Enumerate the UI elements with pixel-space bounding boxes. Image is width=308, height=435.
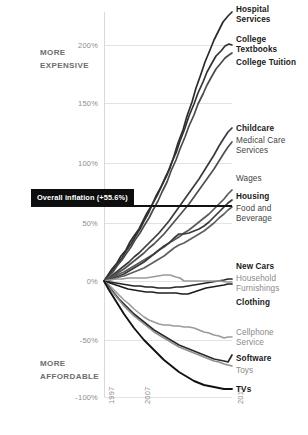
series-label-college-textbooks: College Textbooks [236,35,277,56]
series-label-new-cars: New Cars [236,262,274,272]
series-label-cellphone-service: Cellphone Service [236,328,274,349]
line-college-textbooks [104,44,232,281]
series-label-software: Software [236,354,271,364]
series-label-childcare: Childcare [236,124,274,134]
series-label-toys: Toys [236,366,253,376]
line-college-tuition [104,53,232,281]
series-label-hospital-services: Hospital Services [236,5,271,26]
series-label-wages: Wages [236,174,262,184]
line-medical-care-services [104,142,232,281]
series-label-household-furnishings: Household Furnishings [236,274,279,295]
series-label-medical-care-services: Medical Care Services [236,136,285,157]
price-change-line-chart: 200% 150% 100% 50% 0% -50% -100% 1997 20… [0,0,308,435]
line-hospital-services [104,12,232,281]
series-label-tvs: TVs [236,385,251,395]
line-cellphone-service [104,281,232,338]
series-label-housing: Housing [236,192,269,202]
series-label-food-and-beverage: Food and Beverage [236,204,272,225]
series-label-clothing: Clothing [236,298,270,308]
overall-inflation-label: Overall inflation (+55.6%) [31,189,134,206]
series-label-college-tuition: College Tuition [236,58,296,68]
